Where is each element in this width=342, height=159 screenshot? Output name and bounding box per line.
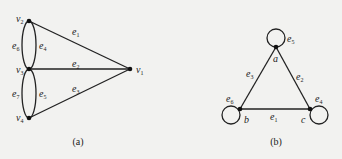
label-b-e5: e5: [287, 33, 294, 45]
label-a-e5: e5: [39, 88, 46, 100]
vertex-v2: [27, 19, 32, 24]
label-b-e1: e1: [270, 111, 277, 123]
label-v4: v4: [16, 112, 23, 124]
figure-a: v1 v2 v3 v4 e1 e2 e3 e4 e5 e6 e7 (a): [12, 13, 143, 148]
vertex-v3: [27, 67, 32, 72]
vertex-c: [308, 107, 313, 112]
label-v2: v2: [16, 13, 23, 25]
figure-b: a b c e1 e2 e3 e4 e5 e6 (b): [222, 29, 328, 148]
label-vertex-c: c: [301, 114, 306, 125]
edge-b-e6-loop: [222, 106, 240, 124]
label-b-e4: e4: [315, 93, 322, 105]
label-a-e2: e2: [72, 58, 79, 70]
caption-a: (a): [72, 136, 83, 148]
label-a-e3: e3: [72, 83, 79, 95]
graph-figures: v1 v2 v3 v4 e1 e2 e3 e4 e5 e6 e7 (a) a b…: [0, 0, 342, 159]
caption-b: (b): [270, 136, 282, 148]
edge-b-e2: [276, 47, 310, 109]
edge-a-e5-e7-pair: [22, 69, 36, 118]
label-vertex-b: b: [244, 114, 249, 125]
label-b-e6: e6: [226, 93, 233, 105]
label-v3: v3: [16, 64, 23, 76]
label-v1: v1: [136, 64, 143, 76]
label-a-e1: e1: [72, 26, 79, 38]
label-b-e2: e2: [296, 71, 303, 83]
vertex-b: [238, 107, 243, 112]
label-a-e6: e6: [12, 40, 19, 52]
vertex-v1: [128, 67, 133, 72]
label-vertex-a: a: [273, 53, 278, 64]
label-a-e4: e4: [39, 40, 46, 52]
edge-b-e5-loop: [267, 29, 285, 47]
label-a-e7: e7: [12, 88, 19, 100]
vertex-v4: [27, 116, 32, 121]
label-b-e3: e3: [246, 68, 253, 80]
edge-a-e4-e6-pair: [22, 21, 36, 69]
edge-b-e4-loop: [310, 106, 328, 124]
edge-a-e1: [29, 21, 130, 69]
vertex-a: [274, 45, 279, 50]
